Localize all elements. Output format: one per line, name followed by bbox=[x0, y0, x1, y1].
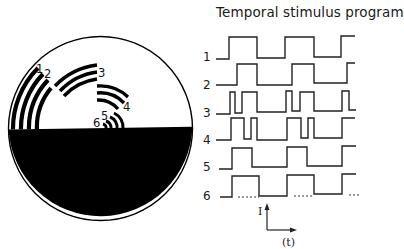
x-axis-label: (t) bbox=[282, 236, 295, 249]
waveform-row-3 bbox=[216, 91, 356, 114]
row-label-5: 5 bbox=[203, 160, 211, 174]
row-label-2: 2 bbox=[203, 78, 211, 92]
waveform-row-4 bbox=[216, 118, 355, 140]
waveforms bbox=[216, 36, 360, 197]
x-axis-arrowhead-icon bbox=[290, 228, 297, 233]
arc-label-5: 5 bbox=[101, 109, 108, 123]
waveform-row-1 bbox=[216, 36, 355, 59]
waveform-row-5 bbox=[219, 146, 356, 169]
row-label-1: 1 bbox=[203, 50, 211, 64]
axes bbox=[265, 203, 298, 233]
waveform-row-2 bbox=[216, 63, 355, 85]
program-row-labels: 1 2 3 4 5 6 bbox=[203, 50, 211, 203]
arc-label-1: 1 bbox=[36, 62, 43, 76]
y-axis-arrowhead-icon bbox=[265, 203, 270, 210]
waveform-row-6 bbox=[220, 174, 356, 197]
arc-label-3: 3 bbox=[98, 66, 105, 80]
arc-label-2: 2 bbox=[44, 67, 51, 81]
row-label-6: 6 bbox=[203, 189, 211, 203]
dark-lower-half bbox=[9, 127, 193, 216]
stimulus-disc: 1 2 3 4 5 6 bbox=[9, 37, 193, 221]
arc-label-4: 4 bbox=[123, 100, 130, 114]
y-axis-label: I bbox=[258, 205, 262, 218]
arc-label-6: 6 bbox=[93, 116, 100, 130]
row-label-3: 3 bbox=[203, 106, 211, 120]
row-label-4: 4 bbox=[203, 133, 211, 147]
